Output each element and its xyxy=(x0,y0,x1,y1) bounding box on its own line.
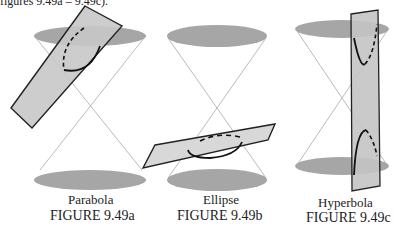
label-ellipse: Ellipse xyxy=(203,192,239,208)
cone-bottom-base xyxy=(167,169,267,191)
cutting-plane xyxy=(11,6,122,128)
cone-top-base xyxy=(167,25,267,47)
caption-figure-b: FIGURE 9.49b xyxy=(177,208,263,224)
cone-bottom-base xyxy=(34,170,146,190)
cutting-plane xyxy=(143,124,275,168)
caption-figure-c: FIGURE 9.49c xyxy=(306,210,391,226)
label-hyperbola: Hyperbola xyxy=(318,195,373,211)
figure-hyperbola xyxy=(295,10,389,191)
figure-parabola xyxy=(11,6,146,190)
caption-figure-a: FIGURE 9.49a xyxy=(50,208,135,224)
figure-ellipse xyxy=(143,25,275,191)
label-parabola: Parabola xyxy=(68,192,113,208)
